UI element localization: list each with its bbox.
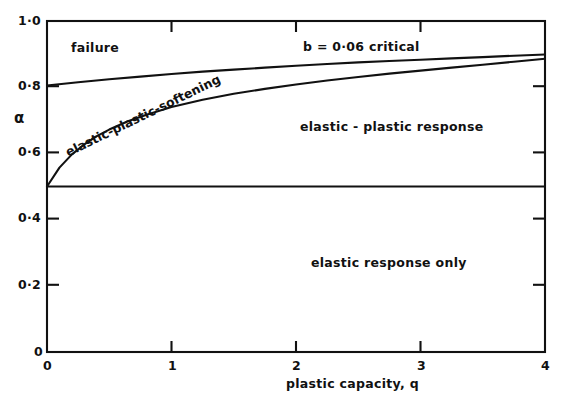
y-tick-label-0.4: 0·4: [18, 210, 41, 225]
y-tick-label-0.8: 0·8: [18, 78, 41, 93]
x-tick-label-4: 4: [541, 358, 550, 373]
annotation-failure: failure: [71, 40, 119, 55]
y-axis-title: α: [14, 109, 25, 127]
chart-figure: 1·0 0·8 0·6 0·4 0·2 0 α 0 1 2 3 4 plasti…: [0, 0, 573, 401]
chart-plot-area: [0, 0, 573, 401]
y-tick-label-0.6: 0·6: [18, 144, 41, 159]
annotation-elastic-only: elastic response only: [311, 255, 467, 270]
x-tick-label-2: 2: [292, 358, 301, 373]
y-tick-label-1.0: 1·0: [18, 13, 41, 28]
y-tick-label-0: 0: [34, 344, 43, 359]
annotation-b-critical: b = 0·06 critical: [303, 39, 420, 54]
x-axis-title: plastic capacity, q: [286, 376, 419, 391]
x-tick-label-0: 0: [43, 358, 52, 373]
x-tick-label-3: 3: [417, 358, 426, 373]
x-tick-label-1: 1: [168, 358, 177, 373]
y-tick-label-0.2: 0·2: [18, 277, 41, 292]
annotation-elastic-plastic: elastic - plastic response: [300, 119, 484, 134]
curve-b-critical: [47, 54, 545, 85]
